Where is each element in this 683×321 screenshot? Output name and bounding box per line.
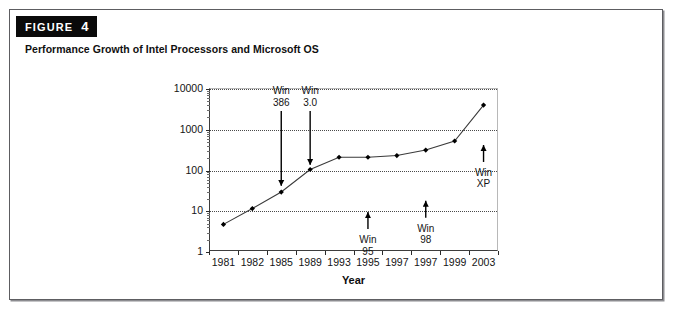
y-axis-minor-tick [207, 91, 210, 92]
annotation-label-line1: Win [302, 85, 319, 97]
x-axis-tick [469, 251, 470, 255]
x-axis-tick [209, 251, 210, 255]
y-axis-minor-tick [207, 240, 210, 241]
y-axis-minor-tick [207, 220, 210, 221]
x-axis-tick [296, 251, 297, 255]
y-axis-minor-tick [207, 174, 210, 175]
y-axis-minor-tick [207, 132, 210, 133]
annotation-label: Win98 [417, 223, 434, 246]
y-axis-minor-tick [207, 98, 210, 99]
x-axis-label: 1982 [241, 256, 264, 268]
x-axis-tick [440, 251, 441, 255]
annotation-label-line2: 3.0 [302, 97, 319, 109]
x-axis-label: 1981 [212, 256, 235, 268]
gridline [210, 211, 497, 212]
figure-badge-number: 4 [81, 19, 88, 34]
y-axis-minor-tick [207, 93, 210, 94]
y-axis-minor-tick [207, 172, 210, 173]
y-axis-minor-tick [207, 187, 210, 188]
annotation-label-line1: Win [475, 167, 492, 179]
y-axis-minor-tick [207, 218, 210, 219]
y-axis-tick [206, 130, 210, 131]
annotation-label: Win95 [359, 234, 376, 257]
figure-frame: FIGURE 4 Performance Growth of Intel Pro… [9, 9, 663, 300]
y-axis-minor-tick [207, 180, 210, 181]
annotation-label: WinXP [475, 167, 492, 190]
annotation-label-line1: Win [417, 223, 434, 235]
chart-plot: 110100100010000 198119821985198919931995… [10, 66, 664, 300]
y-axis-minor-tick [207, 183, 210, 184]
x-axis-label: 1985 [270, 256, 293, 268]
y-axis-minor-tick [207, 95, 210, 96]
x-axis-label: 1989 [298, 256, 321, 268]
y-axis-minor-tick [207, 215, 210, 216]
y-axis-minor-tick [207, 117, 210, 118]
x-axis-label: 1995 [356, 256, 379, 268]
gridline [210, 89, 497, 90]
annotation-label: Win3.0 [302, 85, 319, 108]
y-axis-tick [206, 171, 210, 172]
annotation-label-line2: 386 [273, 97, 290, 109]
gridline [210, 130, 497, 131]
figure-badge: FIGURE 4 [16, 16, 97, 37]
y-axis-minor-tick [207, 139, 210, 140]
x-axis-tick [382, 251, 383, 255]
x-axis-tick [498, 251, 499, 255]
figure-caption: Performance Growth of Intel Processors a… [25, 43, 319, 55]
x-axis-label: 2003 [472, 256, 495, 268]
annotation-label-line2: 98 [417, 234, 434, 246]
annotation-label-line2: XP [475, 178, 492, 190]
x-axis-label: 1993 [327, 256, 350, 268]
x-axis-tick [354, 251, 355, 255]
annotation-label-line1: Win [359, 234, 376, 246]
y-axis-label: 1000 [180, 123, 203, 135]
y-axis-minor-tick [207, 233, 210, 234]
y-axis-label: 10000 [174, 82, 203, 94]
y-axis-minor-tick [207, 142, 210, 143]
y-axis-minor-tick [207, 146, 210, 147]
gridline [210, 171, 497, 172]
y-axis-label: 1 [197, 245, 203, 257]
figure-badge-word: FIGURE [25, 21, 73, 33]
y-axis-minor-tick [207, 177, 210, 178]
y-axis-minor-tick [207, 101, 210, 102]
x-axis-tick [325, 251, 326, 255]
x-axis-tick [411, 251, 412, 255]
y-axis-minor-tick [207, 224, 210, 225]
x-axis-label: 1997 [414, 256, 437, 268]
y-axis-labels: 110100100010000 [150, 88, 203, 251]
y-axis-minor-tick [207, 110, 210, 111]
plot-frame [209, 88, 498, 251]
y-axis-minor-tick [207, 105, 210, 106]
x-axis-labels: 1981198219851989199319951997199719992003 [209, 256, 498, 272]
y-axis-minor-tick [207, 199, 210, 200]
y-axis-minor-tick [207, 227, 210, 228]
x-axis-tick [267, 251, 268, 255]
y-axis-minor-tick [207, 192, 210, 193]
y-axis-tick [206, 211, 210, 212]
annotation-label: Win386 [273, 85, 290, 108]
y-axis-label: 100 [185, 164, 203, 176]
x-axis-title: Year [209, 274, 498, 286]
y-axis-minor-tick [207, 151, 210, 152]
y-axis-minor-tick [207, 134, 210, 135]
x-axis-tick [238, 251, 239, 255]
y-axis-tick [206, 89, 210, 90]
y-axis-label: 10 [191, 204, 203, 216]
annotation-label-line1: Win [273, 85, 290, 97]
y-axis-minor-tick [207, 213, 210, 214]
x-axis-label: 1997 [385, 256, 408, 268]
x-axis-label: 1999 [443, 256, 466, 268]
y-axis-minor-tick [207, 136, 210, 137]
annotation-label-line2: 95 [359, 246, 376, 258]
y-axis-minor-tick [207, 158, 210, 159]
